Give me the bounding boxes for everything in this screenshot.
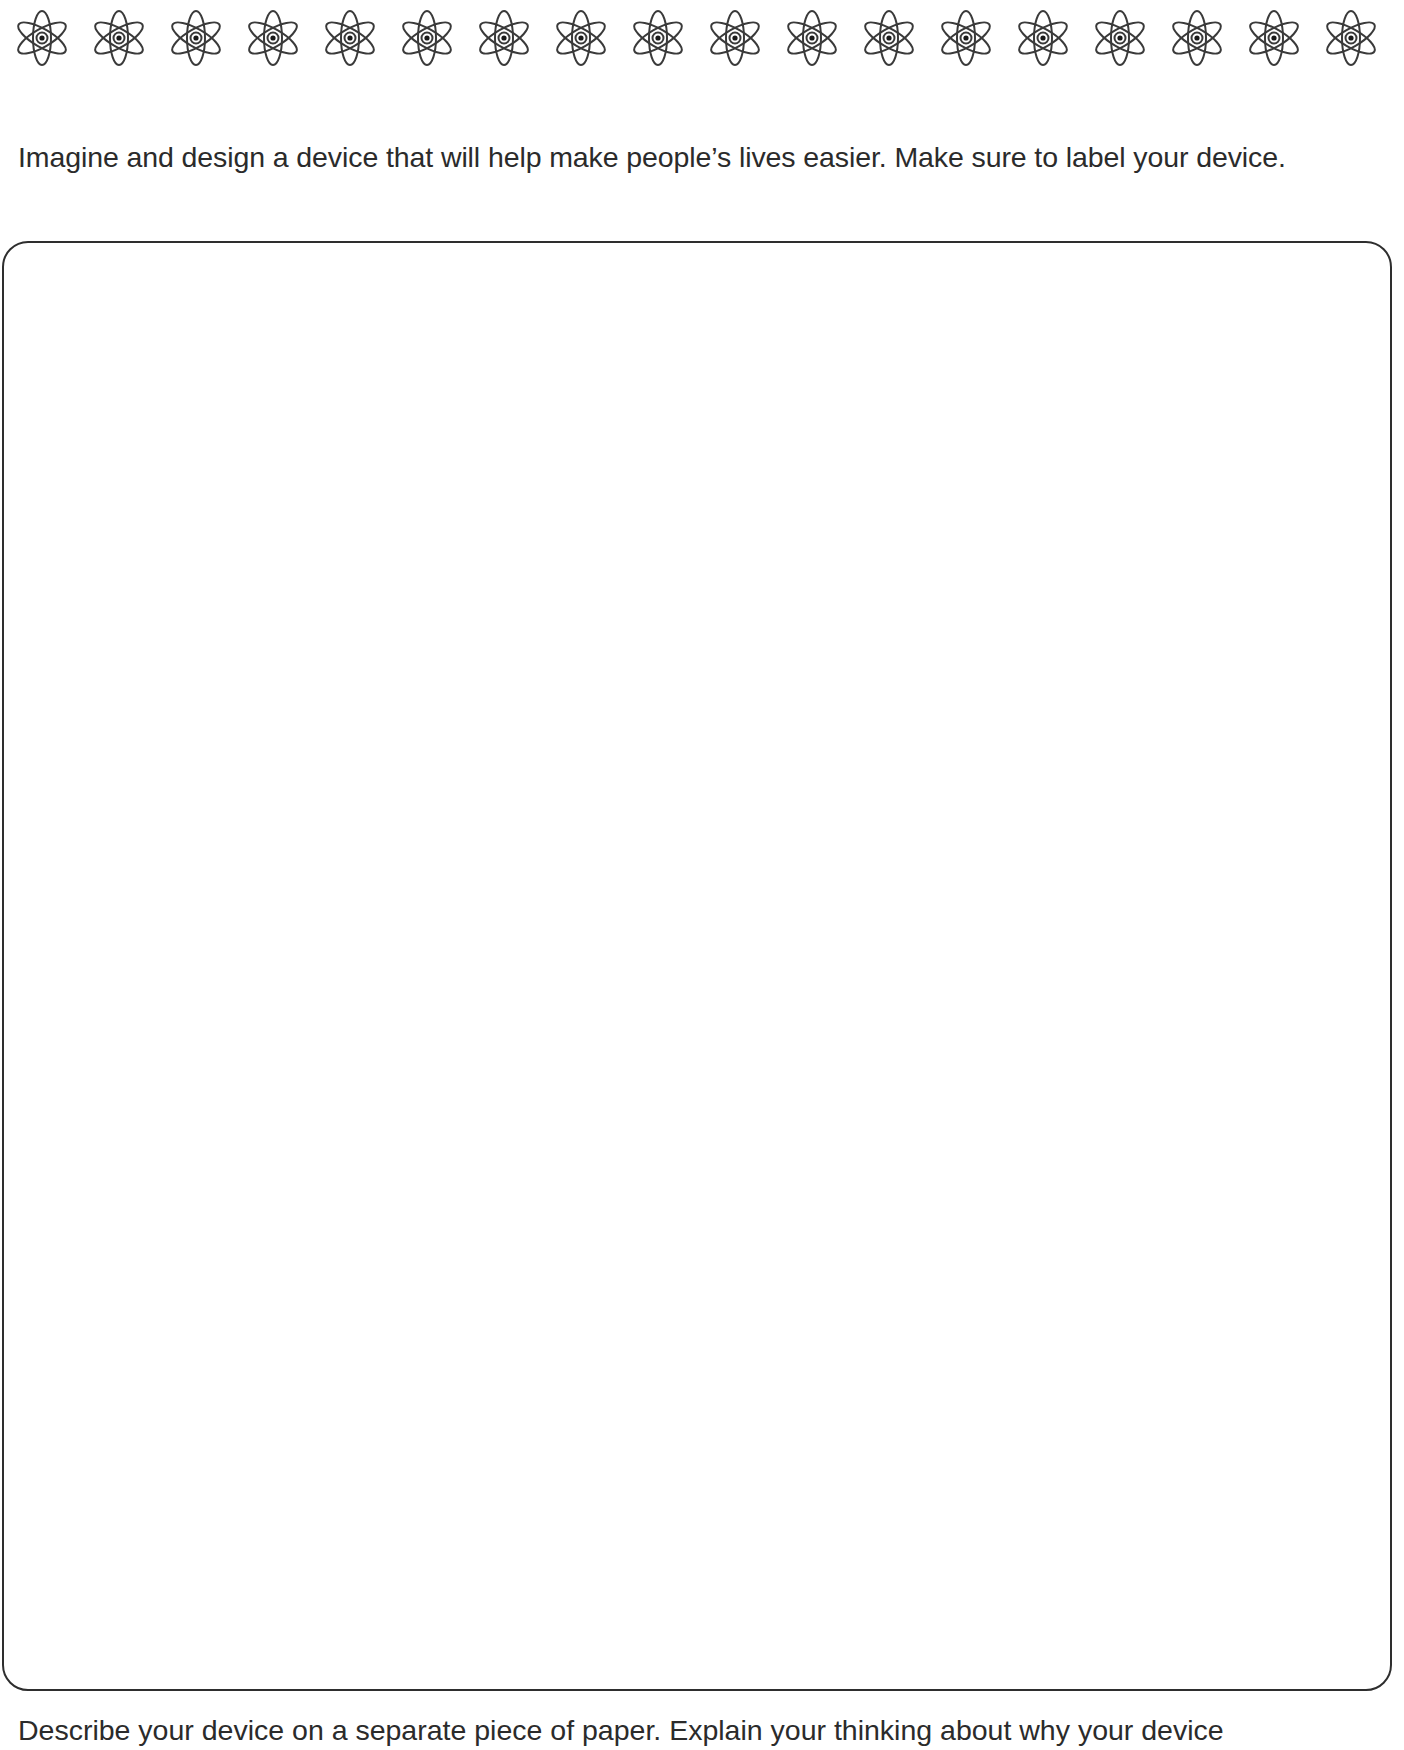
atom-icon (861, 8, 917, 68)
atom-icon (707, 8, 763, 68)
atom-icon (1323, 8, 1379, 68)
atom-icon (476, 8, 532, 68)
atom-icon (1169, 8, 1225, 68)
instruction-text: Imagine and design a device that will he… (18, 135, 1388, 179)
drawing-area[interactable] (2, 241, 1392, 1691)
atom-icon (1015, 8, 1071, 68)
atom-icon (553, 8, 609, 68)
atom-decoration-row (14, 8, 1404, 68)
atom-icon (938, 8, 994, 68)
atom-icon (1246, 8, 1302, 68)
atom-icon (245, 8, 301, 68)
atom-icon (630, 8, 686, 68)
atom-icon (784, 8, 840, 68)
atom-icon (168, 8, 224, 68)
atom-icon (322, 8, 378, 68)
followup-instruction-text: Describe your device on a separate piece… (18, 1708, 1404, 1750)
atom-icon (14, 8, 70, 68)
atom-icon (399, 8, 455, 68)
atom-icon (1092, 8, 1148, 68)
atom-icon (91, 8, 147, 68)
